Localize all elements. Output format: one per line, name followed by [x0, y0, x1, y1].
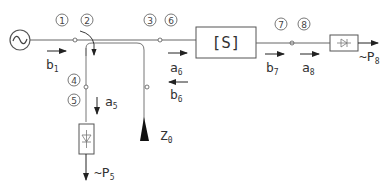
- a6-label: a6: [170, 60, 183, 77]
- port-node-3-6: [158, 38, 162, 42]
- network-diagram: 1 2 3 6 4 5 7 8 [S] ~P8 ~P5: [0, 0, 387, 194]
- z0-termination-icon: [140, 117, 149, 141]
- port-label-5: 5: [71, 96, 77, 106]
- a5-label: a5: [105, 94, 118, 111]
- port-node-z0: [145, 85, 149, 89]
- coupler-branch: [86, 43, 144, 137]
- port-label-1: 1: [59, 16, 65, 26]
- port-label-3: 3: [147, 16, 153, 26]
- port-label-4: 4: [71, 76, 77, 86]
- port-node-4-5: [84, 85, 88, 89]
- b7-label: b7: [266, 60, 279, 77]
- port-label-8: 8: [301, 20, 307, 30]
- b6-label: b6: [170, 87, 183, 104]
- b1-label: b1: [46, 57, 59, 74]
- port-label-7: 7: [278, 20, 284, 30]
- ac-source-icon: [10, 30, 30, 50]
- s-block-label: [S]: [212, 33, 241, 52]
- p5-label: ~P5: [94, 165, 115, 182]
- z0-label: Z0: [160, 128, 173, 145]
- a8-label: a8: [302, 60, 315, 77]
- p8-label: ~P8: [359, 49, 380, 66]
- port-label-2: 2: [84, 16, 90, 26]
- port-node-1-2: [73, 38, 77, 42]
- port-label-6: 6: [168, 16, 174, 26]
